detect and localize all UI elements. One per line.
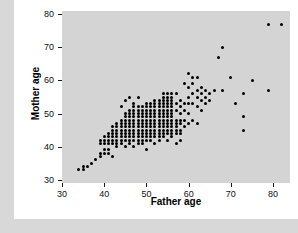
data-point [137, 129, 140, 132]
data-point [204, 96, 207, 99]
data-point [162, 132, 165, 135]
data-point [187, 72, 190, 75]
y-axis-tick [58, 47, 62, 48]
data-point [120, 132, 123, 135]
data-point [99, 139, 102, 142]
data-point [111, 155, 114, 158]
data-point [153, 99, 156, 102]
data-point [170, 102, 173, 105]
data-point [187, 122, 190, 125]
data-point [120, 135, 123, 138]
x-axis-tick [231, 183, 232, 187]
data-point [162, 92, 165, 95]
data-point [115, 132, 118, 135]
data-point [162, 125, 165, 128]
data-point [234, 102, 237, 105]
data-point [251, 79, 254, 82]
data-point [107, 148, 110, 151]
data-point [120, 139, 123, 142]
data-point [162, 109, 165, 112]
y-axis-tick-label: 60 [34, 75, 54, 85]
data-point [99, 155, 102, 158]
data-point [183, 109, 186, 112]
data-point [132, 129, 135, 132]
data-point [128, 125, 131, 128]
data-point [153, 119, 156, 122]
data-point [137, 105, 140, 108]
data-point [111, 142, 114, 145]
data-point [145, 139, 148, 142]
data-point [204, 102, 207, 105]
data-point [107, 132, 110, 135]
data-point [103, 148, 106, 151]
data-point [149, 135, 152, 138]
data-point [145, 119, 148, 122]
data-point [183, 102, 186, 105]
data-point [153, 132, 156, 135]
data-point [120, 105, 123, 108]
x-axis-tick [146, 183, 147, 187]
data-point [175, 125, 178, 128]
data-point [132, 112, 135, 115]
data-point [200, 99, 203, 102]
data-point [170, 109, 173, 112]
data-point [149, 125, 152, 128]
y-axis-tick [58, 180, 62, 181]
data-point [162, 112, 165, 115]
data-point [149, 109, 152, 112]
data-point [145, 109, 148, 112]
data-point [153, 115, 156, 118]
data-point [141, 112, 144, 115]
data-point [145, 122, 148, 125]
data-point [120, 129, 123, 132]
data-point [196, 76, 199, 79]
data-point [166, 132, 169, 135]
data-point [166, 119, 169, 122]
data-point [128, 132, 131, 135]
data-point [115, 129, 118, 132]
data-point [162, 96, 165, 99]
data-point [141, 115, 144, 118]
x-axis-tick [273, 183, 274, 187]
data-point [170, 105, 173, 108]
data-point [166, 105, 169, 108]
data-point [183, 125, 186, 128]
data-point [124, 145, 127, 148]
data-points-layer [62, 11, 290, 183]
x-axis-tick [62, 183, 63, 187]
data-point [196, 89, 199, 92]
data-point [208, 99, 211, 102]
data-point [179, 129, 182, 132]
data-point [115, 135, 118, 138]
data-point [141, 139, 144, 142]
data-point [124, 122, 127, 125]
x-axis-tick-label: 30 [50, 189, 74, 199]
data-point [153, 129, 156, 132]
data-point [187, 112, 190, 115]
data-point [191, 76, 194, 79]
data-point [137, 139, 140, 142]
scatter-plot-figure: Father age Mother age 304050607080304050… [0, 0, 298, 233]
data-point [141, 105, 144, 108]
data-point [153, 122, 156, 125]
data-point [153, 125, 156, 128]
data-point [149, 112, 152, 115]
data-point [137, 109, 140, 112]
data-point [149, 139, 152, 142]
data-point [145, 125, 148, 128]
data-point [141, 142, 144, 145]
data-point [103, 142, 106, 145]
data-point [280, 23, 283, 26]
data-point [175, 132, 178, 135]
data-point [158, 99, 161, 102]
data-point [200, 86, 203, 89]
data-point [162, 122, 165, 125]
data-point [124, 132, 127, 135]
data-point [132, 132, 135, 135]
data-point [158, 139, 161, 142]
data-point [115, 142, 118, 145]
data-point [267, 23, 270, 26]
data-point [175, 142, 178, 145]
x-axis-tick-label: 40 [92, 189, 116, 199]
data-point [166, 109, 169, 112]
